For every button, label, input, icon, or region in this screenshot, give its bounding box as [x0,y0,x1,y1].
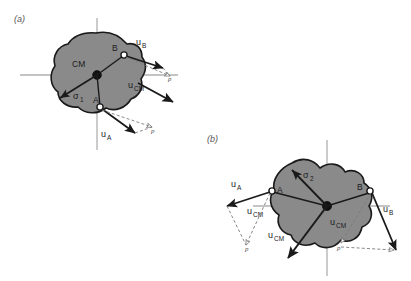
panel-a-vector-u-cm-label: u [128,80,133,90]
panel-a-dashed-b-marker: p [167,75,172,83]
panel-a-sigma-label: σ [73,91,79,101]
panel-b-sigma-subscript: 2 [310,175,314,182]
physics-vector-diagram: (a) CM σ 1 B A u B p u CM [0,0,411,281]
panel-a-vector-u-a-label: u [101,129,106,139]
panel-b-vector-u-cm-right-label: u [330,217,335,227]
panel-a-dashed-a-marker: p [150,127,155,135]
panel-b-vector-u-a-label: u [231,179,236,189]
panel-b-vector-u-cm-right-subscript: CM [336,222,346,229]
panel-b-point-b-label: B [357,182,363,192]
panel-a-vector-u-a-subscript: A [107,134,112,141]
panel-a-vector-u-cm-subscript: CM [134,85,144,92]
panel-a-cm-label: CM [72,59,85,69]
panel-b-vector-u-cm-mid-subscript: CM [274,235,284,242]
panel-b-label: (b) [207,134,218,144]
panel-b-vector-u-a-subscript: A [237,184,242,191]
panel-b-vector-u-b-subscript: B [389,209,393,216]
panel-b-vector-u-cm-left-label: u [247,206,252,216]
panel-a-point-b-label: B [112,43,118,53]
panel-b-dashed-b-marker: p [336,244,341,252]
panel-b-sigma-label: σ [303,170,309,180]
panel-a-vector-u-b-subscript: B [142,42,146,49]
panel-b-point-a-label: A [277,185,283,195]
panel-a-vector-u-b-label: u [136,37,141,47]
panel-a-point-a-label: A [93,95,99,105]
panel-b-vector-u-b-label: u [383,204,388,214]
panel-b-vector-u-cm-left-subscript: CM [253,211,263,218]
panel-a-sigma-subscript: 1 [80,96,84,103]
panel-b-vector-u-cm-mid-label: u [268,230,273,240]
panel-b-dashed-a-marker: p [244,245,249,253]
panel-a-label: (a) [14,14,25,24]
